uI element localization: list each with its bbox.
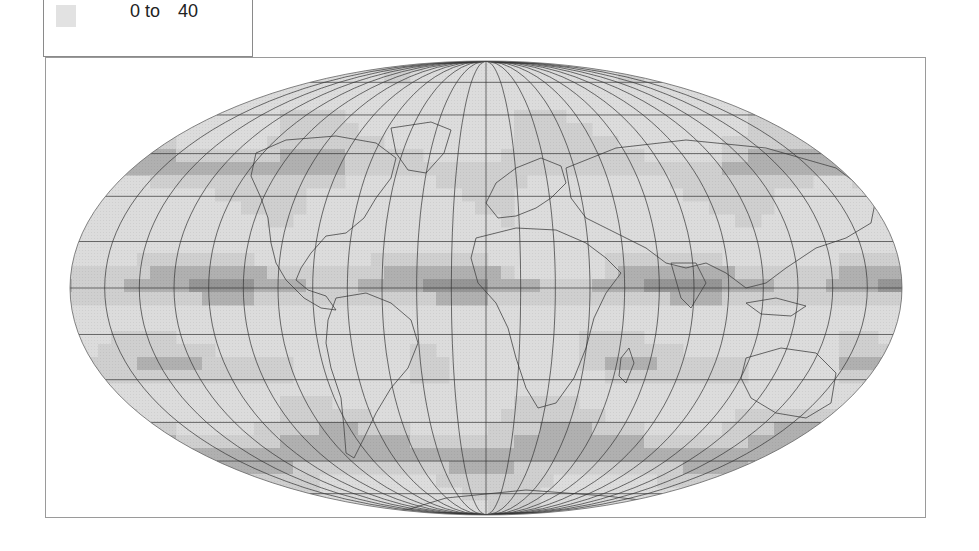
legend-max-label: 40 [178,1,198,21]
map-shading [46,58,927,519]
map-frame[interactable] [45,57,926,518]
legend-swatch [56,5,76,27]
legend-label: 0 to40 [130,1,198,22]
legend-min-label: 0 to [130,1,160,21]
legend: 0 to40 [43,0,253,57]
world-map[interactable] [46,58,927,519]
